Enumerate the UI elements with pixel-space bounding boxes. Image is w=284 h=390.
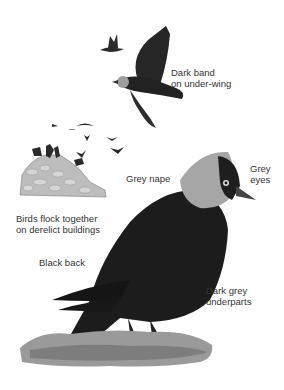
eyes-label: Grey eyes [250, 163, 271, 185]
small-flying-bird-icon [100, 34, 124, 52]
nape-label: Grey nape [126, 173, 170, 184]
flock-label: Birds flock together on derelict buildin… [16, 213, 100, 235]
jackdaw-illustration [0, 0, 284, 390]
back-label: Black back [39, 257, 85, 268]
nape-label-text: Grey nape [126, 173, 170, 184]
under-wing-label-line1: Dark band [171, 67, 231, 78]
underparts-label: Dark grey underparts [206, 285, 251, 307]
underparts-label-line2: underparts [206, 296, 251, 307]
eyes-label-line2: eyes [250, 174, 271, 185]
under-wing-label: Dark band on under-wing [171, 67, 231, 89]
flock-label-line2: on derelict buildings [16, 224, 100, 235]
eyes-label-line1: Grey [250, 163, 271, 174]
flock-birds-icon [52, 124, 124, 159]
flock-label-line1: Birds flock together [16, 213, 100, 224]
derelict-wall-icon [20, 144, 106, 197]
back-label-text: Black back [39, 257, 85, 268]
underparts-label-line1: Dark grey [206, 285, 251, 296]
under-wing-label-line2: on under-wing [171, 78, 231, 89]
grass-ground-icon [20, 330, 212, 366]
